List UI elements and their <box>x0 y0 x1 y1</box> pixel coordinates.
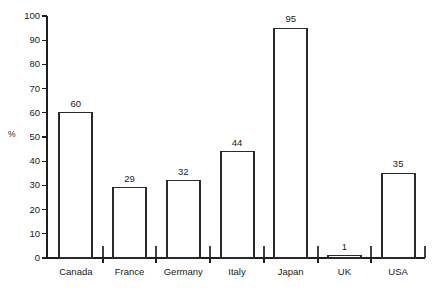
bar-value-label: 32 <box>158 167 208 177</box>
bar-france <box>113 188 146 258</box>
bar-canada <box>59 113 92 258</box>
bar-uk <box>328 256 361 258</box>
y-axis-tick-label: 100 <box>8 11 40 21</box>
bar-usa <box>382 173 415 258</box>
y-axis-tick-label: 20 <box>8 205 40 215</box>
y-axis-tick-label: 0 <box>8 253 40 263</box>
bar-chart-figure: 0102030405060708090100 CanadaFranceGerma… <box>0 0 441 292</box>
bar-value-label: 1 <box>319 242 369 252</box>
y-axis-tick-label: 90 <box>8 35 40 45</box>
bar-value-label: 44 <box>212 138 262 148</box>
y-axis-tick-label: 70 <box>8 84 40 94</box>
bar-value-label: 95 <box>266 14 316 24</box>
y-axis-tick-label: 40 <box>8 156 40 166</box>
y-axis-ticks-group <box>42 16 47 258</box>
bar-value-label: 29 <box>105 174 155 184</box>
bar-value-label: 35 <box>373 159 423 169</box>
bar-italy <box>221 152 254 258</box>
bar-japan <box>274 28 307 258</box>
y-axis-tick-label: 10 <box>8 229 40 239</box>
y-axis-tick-label: 60 <box>8 108 40 118</box>
x-axis-category-label: USA <box>365 267 431 277</box>
bar-germany <box>167 181 200 258</box>
bar-value-label: 60 <box>51 99 101 109</box>
y-axis-tick-label: 30 <box>8 180 40 190</box>
y-axis-unit-label: % <box>8 130 16 139</box>
y-axis-tick-label: 80 <box>8 59 40 69</box>
